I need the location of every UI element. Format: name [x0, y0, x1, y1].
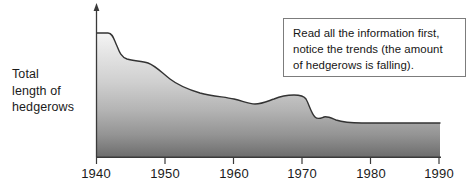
annotation-line-3: of hedgerows is falling). — [293, 57, 465, 73]
x-tick-label-1940: 1940 — [73, 166, 119, 181]
x-tick-label-1980: 1980 — [348, 166, 394, 181]
hedgerow-area-chart-figure: Total length of hedgerows — [0, 0, 474, 193]
annotation-line-1: Read all the information first, — [293, 25, 465, 41]
annotation-callout-box: Read all the information first, notice t… — [283, 18, 466, 77]
x-tick-label-1960: 1960 — [211, 166, 257, 181]
y-axis-arrow-icon — [94, 3, 100, 11]
x-axis-ticks — [97, 157, 440, 164]
x-tick-label-1950: 1950 — [142, 166, 188, 181]
annotation-line-2: notice the trends (the amount — [293, 41, 465, 57]
x-tick-label-1970: 1970 — [279, 166, 325, 181]
x-tick-label-1990: 1990 — [416, 166, 462, 181]
